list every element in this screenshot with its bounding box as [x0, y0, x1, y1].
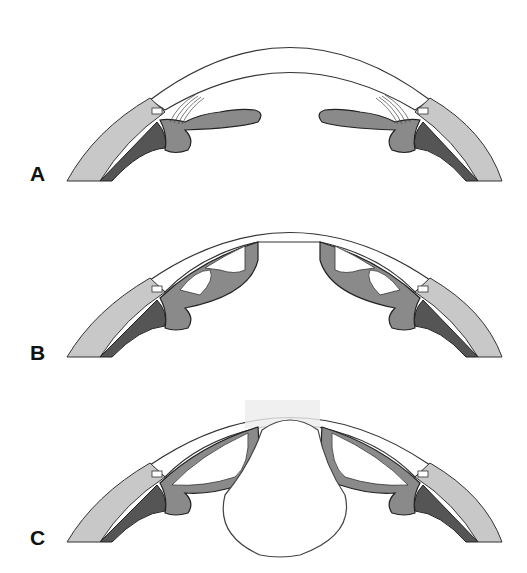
panel-b: B: [0, 200, 527, 365]
panel-c: C: [0, 385, 527, 573]
iris-ciliary-right: [319, 109, 420, 152]
iris-ciliary-left: [160, 109, 261, 152]
panel-a: A: [0, 0, 527, 190]
panel-label-c: C: [30, 527, 45, 548]
eye-cross-section-b: [0, 200, 527, 365]
eye-cross-section-a: [0, 0, 527, 190]
panel-label-b: B: [30, 342, 45, 363]
eye-cross-section-c: [0, 385, 527, 573]
panel-label-a: A: [30, 163, 45, 184]
